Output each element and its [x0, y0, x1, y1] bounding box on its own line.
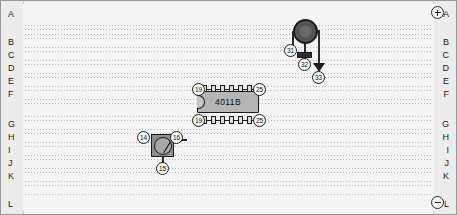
- row-label-d: D: [8, 64, 15, 73]
- row-label-l-right: L: [444, 200, 449, 209]
- left-rail: [1, 1, 24, 214]
- contact-strip: [25, 47, 432, 52]
- ic-pin[interactable]: [220, 116, 225, 124]
- right-rail: [433, 1, 456, 214]
- breadboard-canvas: A B C D E F G H I J K L A B C D E F G H …: [0, 0, 457, 215]
- ic-pin[interactable]: [229, 116, 234, 124]
- row-label-k-right: K: [443, 172, 449, 181]
- node-14[interactable]: 14: [137, 131, 150, 144]
- buzzer-center-drop: [304, 43, 306, 52]
- row-label-k: K: [8, 172, 14, 181]
- positive-terminal[interactable]: [431, 6, 444, 19]
- ic-bottom-pin-row: [1, 116, 456, 124]
- contact-strip: [25, 194, 432, 195]
- ic-pin[interactable]: [238, 116, 243, 124]
- node-ic-bottom-right[interactable]: 25: [253, 114, 266, 127]
- node-32[interactable]: 32: [298, 58, 311, 71]
- row-label-i-right: I: [446, 146, 449, 155]
- row-label-b-right: B: [443, 38, 449, 47]
- ic-pin[interactable]: [211, 116, 216, 124]
- row-label-b: B: [8, 38, 14, 47]
- contact-strip: [25, 168, 432, 173]
- ic-pin[interactable]: [247, 116, 252, 124]
- row-label-c: C: [8, 51, 15, 60]
- contact-strip: [25, 73, 432, 78]
- plus-icon-vertical: [437, 10, 438, 16]
- row-label-l: L: [8, 200, 13, 209]
- minus-icon: [435, 202, 441, 203]
- contact-strip: [25, 60, 432, 65]
- contact-strip: [25, 142, 432, 147]
- row-label-j: J: [8, 159, 13, 168]
- contact-strip: [25, 25, 432, 30]
- meter-dial-icon: [154, 137, 172, 155]
- row-label-d-right: D: [443, 64, 450, 73]
- node-16[interactable]: 16: [170, 131, 183, 144]
- meter-needle-icon: [163, 141, 171, 153]
- contact-strip: [25, 34, 432, 39]
- node-ic-top-right[interactable]: 25: [253, 83, 266, 96]
- negative-terminal[interactable]: [431, 196, 444, 209]
- node-15[interactable]: 15: [156, 162, 169, 175]
- contact-strip: [25, 129, 432, 134]
- contact-strip: [25, 155, 432, 160]
- row-label-c-right: C: [443, 51, 450, 60]
- row-label-h-right: H: [443, 133, 450, 142]
- row-label-h: H: [8, 133, 15, 142]
- ic-part-label: 4011B: [198, 97, 258, 107]
- row-label-a: A: [8, 10, 14, 19]
- contact-strip: [25, 181, 432, 186]
- node-ic-top-left[interactable]: 19: [192, 83, 205, 96]
- node-33[interactable]: 33: [312, 71, 325, 84]
- ic-4011b[interactable]: 4011B: [197, 91, 259, 113]
- row-label-i: I: [8, 146, 11, 155]
- buzzer-component[interactable]: [293, 19, 318, 44]
- node-31[interactable]: 31: [284, 44, 297, 57]
- node-ic-bottom-left[interactable]: 19: [192, 114, 205, 127]
- row-label-j-right: J: [445, 159, 450, 168]
